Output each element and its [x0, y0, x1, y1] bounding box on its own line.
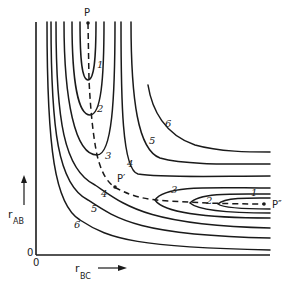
contour-1-upper	[80, 22, 96, 80]
points: P P′ P″	[84, 7, 282, 210]
label-4-outer: 4	[100, 188, 107, 199]
label-5-inner: 5	[149, 135, 155, 146]
label-5-outer: 5	[91, 203, 97, 214]
label-6-outer: 6	[74, 219, 81, 230]
label-6-inner: 6	[165, 118, 172, 129]
label-2-upper: 2	[96, 103, 103, 114]
point-P-prime-dot	[113, 185, 117, 189]
y-axis-arrowhead-icon	[21, 175, 27, 183]
x-axis-label-sub: BC	[80, 272, 91, 281]
label-1-right: 1	[251, 187, 257, 198]
potential-energy-diagram: P P′ P″ 1 2 3 4 5 6 4 5 6 3 2 1 r AB r B…	[0, 0, 291, 285]
point-P-double-prime-dot	[262, 202, 266, 206]
y-axis-label: r AB	[8, 175, 27, 226]
label-3-upper: 3	[105, 150, 111, 161]
contour-4-outer	[56, 22, 270, 228]
contour-4-inner	[121, 22, 270, 177]
y-axis-label-sub: AB	[13, 217, 24, 226]
origin-label-x: 0	[33, 257, 39, 268]
label-3-right: 3	[171, 184, 177, 195]
x-axis-arrowhead-icon	[118, 265, 127, 271]
point-P-prime-label: P′	[117, 173, 126, 184]
label-4-inner: 4	[126, 158, 133, 169]
point-P-label: P	[84, 7, 90, 18]
contours-inner	[121, 22, 270, 177]
point-P-double-prime-label: P″	[272, 199, 282, 210]
label-1-upper: 1	[97, 59, 103, 70]
x-axis-label: r BC	[75, 262, 127, 281]
point-P-dot	[86, 21, 90, 25]
label-2-right: 2	[205, 195, 212, 206]
